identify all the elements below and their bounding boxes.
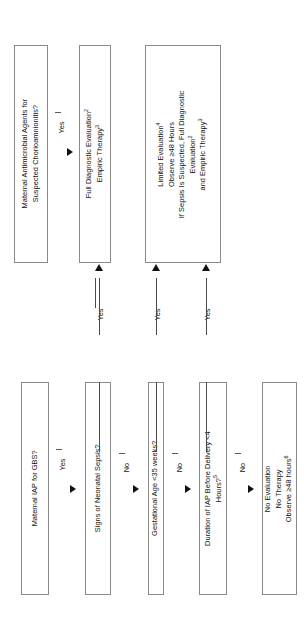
- edge-label-iapduration-yes: Yes: [203, 303, 212, 327]
- edge-line-iapduration-to-limited-upper: [206, 278, 207, 335]
- node-no-evaluation-no-therapy[interactable]: No Evaluation No Therapy Observe ≥48 hou…: [262, 382, 297, 595]
- flowchart-canvas: Maternal Antimicrobial Agents for Suspec…: [0, 0, 304, 636]
- arrowhead-sepsis-to-fulleval: [95, 264, 103, 271]
- node-line-3: Observe ≥48 hours6: [285, 455, 296, 522]
- edge-line-gestage-to-limited-lower: [156, 382, 157, 452]
- arrowhead-iapduration-to-limited: [202, 264, 210, 271]
- node-line-2: No Therapy: [274, 455, 285, 522]
- edge-label-chorio-yes: Yes: [57, 116, 66, 140]
- edge-line-gestage-to-limited-upper: [156, 278, 157, 335]
- node-signs-of-neonatal-sepsis[interactable]: Signs of Neonatal Sepsis?: [85, 382, 111, 595]
- node-line-2: Empiric Therapy3: [95, 109, 106, 198]
- node-label: Gestational Age <35 weeks?: [151, 441, 162, 536]
- node-line-5-text: and Empiric Therapy: [199, 121, 208, 190]
- node-limited-evaluation-observe[interactable]: Limited Evaluation4 Observe ≥48 Hours If…: [145, 45, 221, 263]
- edge-line-iapduration-to-limited-lower: [206, 382, 207, 452]
- node-line-1: Limited Evaluation4: [157, 90, 168, 218]
- footnote-ref-3: 3: [94, 125, 100, 128]
- node-label: Signs of Neonatal Sepsis?: [93, 445, 104, 533]
- node-line-1: Maternal IAP for GBS?: [30, 450, 41, 526]
- edge-label-sepsis-yes: Yes: [96, 303, 105, 327]
- node-line-3: If Sepsis Is Suspected, Full Diagnostic: [178, 90, 189, 218]
- node-line-2-text: Hours?: [213, 478, 222, 502]
- footnote-ref-2b: 2: [187, 135, 193, 138]
- arrowhead-iapduration-to-noeval: [248, 485, 254, 493]
- node-maternal-antimicrobial-chorioamnionitis[interactable]: Maternal Antimicrobial Agents for Suspec…: [14, 45, 48, 263]
- arrowhead-iapgbs-to-signs-sepsis: [70, 485, 76, 493]
- node-maternal-iap-for-gbs[interactable]: Maternal IAP for GBS?: [21, 382, 49, 595]
- edge-line-chorio-branch: [95, 278, 96, 308]
- edge-stub-iapgbs-yes: [56, 449, 62, 450]
- footnote-ref-3b: 3: [197, 118, 203, 121]
- edge-line-sepsis-to-fulleval-lower: [99, 382, 100, 452]
- node-line-3-text: Observe ≥48 hours: [285, 458, 294, 522]
- node-line-1: No Evaluation: [264, 455, 275, 522]
- node-full-diagnostic-evaluation-empiric-therapy[interactable]: Full Diagnostic Evaluation2 Empiric Ther…: [79, 45, 111, 263]
- arrowhead-gestage-to-iapduration: [185, 485, 191, 493]
- node-line-1: Gestational Age <35 weeks?: [151, 441, 162, 536]
- edge-stub-gestage-no: [172, 453, 178, 454]
- node-line-4-text: Evaluation: [188, 138, 197, 173]
- node-line-1-text: Full Diagnostic Evaluation: [84, 112, 93, 198]
- node-label: Full Diagnostic Evaluation2 Empiric Ther…: [84, 109, 105, 198]
- node-line-1: Maternal Antimicrobial Agents for: [20, 99, 31, 209]
- node-line-2: Suspected Chorioamnionitis?: [31, 99, 42, 209]
- edge-stub-iapduration-no: [235, 453, 241, 454]
- footnote-ref-2: 2: [83, 109, 89, 112]
- node-label: Maternal Antimicrobial Agents for Suspec…: [20, 99, 41, 209]
- node-line-2: Observe ≥48 Hours: [167, 90, 178, 218]
- footnote-ref-6: 6: [283, 455, 289, 458]
- node-label: No Evaluation No Therapy Observe ≥48 hou…: [264, 455, 296, 522]
- node-line-4: Evaluation2: [188, 90, 199, 218]
- arrowhead-sepsis-to-gestage: [133, 485, 139, 493]
- edge-label-gestage-no: No: [175, 457, 184, 479]
- edge-label-sepsis-no: No: [122, 457, 131, 479]
- arrowhead-chorio-to-full-eval: [67, 148, 73, 156]
- node-line-2: Hours?5: [213, 431, 224, 546]
- edge-label-iapduration-no: No: [238, 457, 247, 479]
- node-line-1: Duration of IAP Before Delivery <4: [202, 431, 213, 546]
- footnote-ref-5: 5: [212, 475, 218, 478]
- edge-label-gestage-yes: Yes: [153, 303, 162, 327]
- node-line-1: Signs of Neonatal Sepsis?: [93, 445, 104, 533]
- node-line-1: Full Diagnostic Evaluation2: [84, 109, 95, 198]
- node-label: Limited Evaluation4 Observe ≥48 Hours If…: [157, 90, 210, 218]
- node-duration-of-iap-before-delivery[interactable]: Duration of IAP Before Delivery <4 Hours…: [199, 382, 227, 595]
- edge-stub-chorio-yes: [55, 112, 61, 113]
- edge-label-iapgbs-yes: Yes: [58, 453, 67, 477]
- edge-line-sepsis-to-fulleval-upper: [99, 278, 100, 335]
- node-line-2-text: Empiric Therapy: [95, 128, 104, 182]
- node-label: Maternal IAP for GBS?: [30, 450, 41, 526]
- node-line-5: and Empiric Therapy3: [199, 90, 210, 218]
- footnote-ref-4: 4: [155, 122, 161, 125]
- arrowhead-gestage-to-limited: [152, 264, 160, 271]
- edge-stub-sepsis-no: [119, 453, 125, 454]
- node-line-1-text: Limited Evaluation: [157, 125, 166, 186]
